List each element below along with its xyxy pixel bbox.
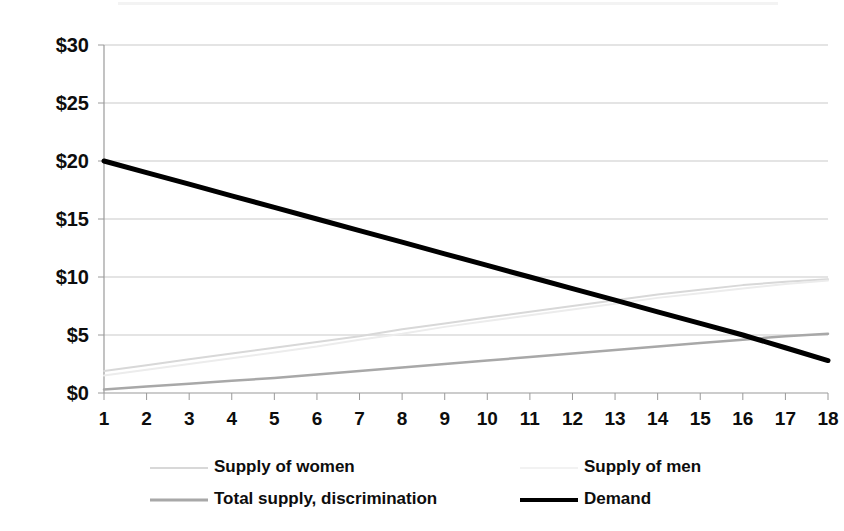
x-axis-tick-label: 4 (226, 408, 237, 429)
legend-label: Demand (584, 489, 651, 508)
supply-demand-line-chart: $0$5$10$15$20$25$30 12345678910111213141… (0, 0, 844, 531)
x-axis-tick-label: 9 (439, 408, 450, 429)
y-axis-tick-label: $15 (56, 208, 89, 230)
x-axis-tick-label: 8 (397, 408, 408, 429)
x-axis-tick-label: 13 (604, 408, 625, 429)
x-axis-tick-label: 18 (817, 408, 838, 429)
chart-background (0, 0, 844, 531)
x-axis-tick-label: 11 (520, 408, 541, 429)
x-axis-tick-label: 10 (477, 408, 498, 429)
y-axis-tick-label: $30 (56, 34, 89, 56)
x-axis-tick-label: 7 (354, 408, 365, 429)
x-axis-tick-label: 14 (647, 408, 669, 429)
legend-label: Total supply, discrimination (214, 489, 437, 508)
x-axis-tick-label: 12 (562, 408, 583, 429)
scan-artifact (118, 2, 778, 5)
legend-label: Supply of women (214, 457, 355, 476)
x-axis-tick-label: 17 (775, 408, 796, 429)
y-axis-tick-label: $25 (56, 92, 89, 114)
legend-label: Supply of men (584, 457, 701, 476)
x-axis-tick-label: 1 (99, 408, 110, 429)
y-axis-tick-label: $5 (67, 324, 89, 346)
x-axis-tick-label: 15 (690, 408, 712, 429)
x-axis-tick-label: 16 (732, 408, 753, 429)
x-axis-tick-label: 6 (312, 408, 323, 429)
x-axis-tick-label: 5 (269, 408, 280, 429)
chart-canvas: $0$5$10$15$20$25$30 12345678910111213141… (0, 0, 844, 531)
y-axis-tick-label: $0 (67, 382, 89, 404)
y-axis-tick-label: $20 (56, 150, 89, 172)
y-axis-tick-label: $10 (56, 266, 89, 288)
x-axis-tick-label: 3 (184, 408, 195, 429)
x-axis-tick-label: 2 (141, 408, 152, 429)
